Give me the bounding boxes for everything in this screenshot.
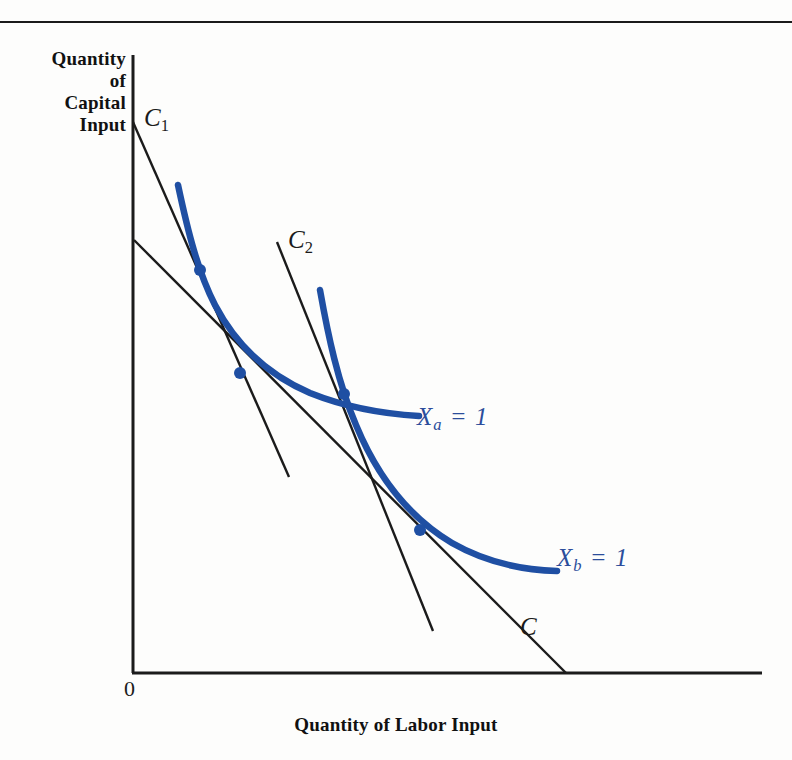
isocost-label-c2-subscript: 2 <box>305 238 313 257</box>
isocost-line-c2 <box>277 242 433 631</box>
isoquant-curve-xa <box>178 185 419 416</box>
tangency-point-c-xb <box>414 524 426 536</box>
isocost-label-c1-subscript: 1 <box>161 116 169 135</box>
isoquant-label-xb-value: = 1 <box>583 544 629 571</box>
isocost-label-c2: C2 <box>288 226 313 258</box>
isoquant-label-xa-value: = 1 <box>443 403 489 430</box>
isoquant-label-xb-letter: X <box>557 544 573 571</box>
isoquant-label-xb: Xb = 1 <box>557 544 628 576</box>
isoquant-label-xa-letter: X <box>417 403 433 430</box>
tangency-point-c-xa <box>234 367 246 379</box>
tangency-point-c1-xa <box>194 264 206 276</box>
tangency-point-c2-xb <box>338 388 350 400</box>
axis-group <box>132 55 762 673</box>
x-axis-title: Quantity of Labor Input <box>196 714 596 736</box>
y-axis-title-line-4: Input <box>10 114 126 136</box>
isoquant-label-xb-subscript: b <box>573 556 582 575</box>
y-axis-title-line-3: Capital <box>10 92 126 114</box>
tangency-points-group <box>194 264 426 536</box>
y-axis-title-line-1: Quantity <box>10 48 126 70</box>
isocost-label-c: C <box>520 613 537 641</box>
isoquant-label-xa: Xa = 1 <box>417 403 488 435</box>
isoquant-label-xa-subscript: a <box>433 415 442 434</box>
isocost-label-c1-letter: C <box>144 104 161 131</box>
figure-root: Quantity of Capital Input Quantity of La… <box>0 0 792 760</box>
isocost-line-c <box>134 240 566 673</box>
isocost-label-c1: C1 <box>144 104 169 136</box>
isocost-label-c2-letter: C <box>288 226 305 253</box>
origin-label: 0 <box>124 676 135 702</box>
y-axis-title-line-2: of <box>10 70 126 92</box>
y-axis-title: Quantity of Capital Input <box>10 48 126 136</box>
